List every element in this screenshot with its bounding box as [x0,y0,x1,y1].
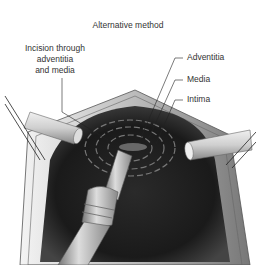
label-incision-line3: and media [10,65,100,76]
label-incision-line1: Incision through [10,43,100,54]
label-adventitia: Adventitia [187,52,224,63]
label-incision-line2: adventitia [10,54,100,65]
surgical-illustration [0,0,256,265]
label-intima: Intima [187,94,210,105]
figure-title: Alternative method [0,20,256,30]
label-media: Media [187,74,210,85]
label-incision: Incision through adventitia and media [10,43,100,76]
